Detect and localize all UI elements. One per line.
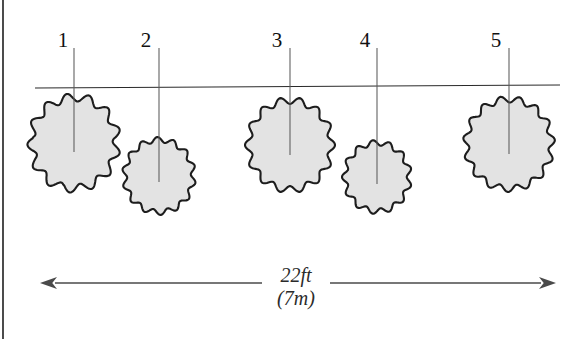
- tree-2: 2: [123, 28, 196, 215]
- tree-label-5: 5: [491, 28, 502, 52]
- tree-group: 12345: [27, 28, 554, 215]
- alignment-reference-line: [35, 85, 560, 88]
- dimension-arrow: 22ft (7m): [40, 264, 556, 310]
- tree-5: 5: [463, 28, 554, 192]
- tree-label-1: 1: [58, 28, 69, 52]
- tree-label-3: 3: [272, 28, 283, 52]
- tree-spacing-diagram: 12345 22ft (7m): [0, 0, 585, 339]
- tree-3: 3: [245, 28, 335, 192]
- tree-1: 1: [27, 28, 119, 193]
- dimension-label-metric: (7m): [277, 287, 315, 310]
- dimension-label-imperial: 22ft: [280, 264, 312, 287]
- tree-4: 4: [342, 28, 411, 214]
- tree-label-4: 4: [360, 28, 371, 52]
- tree-label-2: 2: [141, 28, 152, 52]
- dimension-arrowhead-right: [539, 277, 556, 289]
- dimension-arrowhead-left: [40, 277, 57, 289]
- diagram-canvas: 12345 22ft (7m): [0, 0, 585, 339]
